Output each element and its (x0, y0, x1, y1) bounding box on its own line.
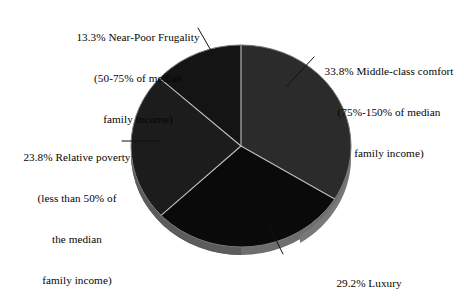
slice-label-middle-class-comfort: 33.8% Middle-class comfort (75%-150% of … (314, 38, 464, 188)
label-line: (less than 50% of (4, 192, 150, 206)
label-line: the median (4, 233, 150, 247)
label-line: 23.8% Relative poverty (4, 151, 150, 165)
label-line: (50-75% of median (62, 72, 214, 86)
label-line: 13.3% Near-Poor Frugality (62, 31, 214, 45)
label-line: family income) (4, 274, 150, 288)
pie-chart-figure: 13.3% Near-Poor Frugality (50-75% of med… (0, 0, 464, 298)
label-line: 33.8% Middle-class comfort (314, 65, 464, 79)
slice-label-relative-poverty: 23.8% Relative poverty (less than 50% of… (4, 124, 150, 298)
label-line: family income) (314, 147, 464, 161)
label-line: (75%-150% of median (314, 106, 464, 120)
label-line: 29.2% Luxury (276, 277, 462, 291)
slice-label-luxury: 29.2% Luxury (more than 150% of median f… (276, 250, 462, 298)
